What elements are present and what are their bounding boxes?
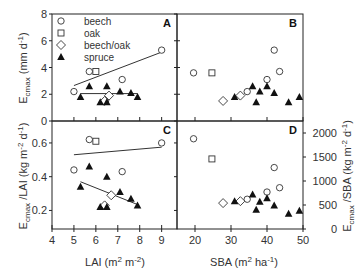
x-tick-label: 7	[115, 234, 121, 246]
point-oak	[209, 156, 215, 162]
legend-marker-oak	[58, 30, 64, 36]
x-axis-title-sba: SBA (m2 ha-1)	[210, 255, 278, 268]
panel-label: D	[289, 124, 297, 136]
point-spruce	[296, 207, 304, 214]
legend-label: oak	[84, 28, 101, 39]
point-spruce	[252, 206, 260, 213]
y-tick-label: 0	[331, 223, 337, 235]
y-tick-label: 0.4	[32, 171, 47, 183]
point-spruce	[270, 201, 278, 208]
legend-marker-beech	[58, 18, 64, 24]
point-spruce	[249, 190, 257, 197]
point-beech	[71, 88, 77, 94]
point-spruce	[270, 89, 278, 96]
point-spruce	[116, 188, 124, 195]
y-axis-title-right: Ecmax /SBA (kg m-2 d-1)	[340, 120, 356, 232]
point-spruce	[127, 89, 135, 96]
x-tick-label: 4	[49, 234, 55, 246]
point-beech	[71, 167, 77, 173]
y-tick-label: 8	[41, 8, 47, 20]
point-spruce	[77, 183, 85, 190]
point-spruce	[263, 82, 271, 89]
point-spruce	[256, 198, 264, 205]
panel-d: D203040500500100015002000	[177, 121, 337, 246]
y-tick-label: 2	[41, 88, 47, 100]
legend-marker-beech-oak	[57, 41, 66, 50]
legend-label: beech/oak	[84, 40, 131, 51]
panel-c: C4567890.20.40.6	[32, 121, 177, 246]
x-tick-label: 5	[71, 234, 77, 246]
y-tick-label: 1000	[313, 175, 337, 187]
point-spruce	[285, 210, 293, 217]
point-beech	[276, 185, 282, 191]
x-tick-label: 50	[297, 234, 309, 246]
panel-frame	[52, 121, 177, 229]
y-tick-label: 4	[41, 62, 47, 74]
point-beech	[271, 164, 277, 170]
x-axis-title-lai: LAI (m2 m-2)	[85, 255, 145, 268]
point-beech-oak	[219, 199, 228, 208]
legend: beechoakbeech/oakspruce	[57, 16, 132, 63]
y-tick-label: 2000	[313, 127, 337, 139]
x-tick-label: 6	[93, 234, 99, 246]
panel-label: B	[289, 17, 297, 29]
x-tick-label: 9	[159, 234, 165, 246]
point-beech	[119, 168, 125, 174]
fit-line-beech	[74, 147, 162, 155]
y-tick-label: 1500	[313, 151, 337, 163]
y-tick-label: 6	[41, 35, 47, 47]
panel-frame	[52, 14, 177, 121]
point-beech	[244, 88, 250, 94]
point-beech-oak	[236, 197, 245, 206]
legend-marker-spruce	[57, 53, 65, 60]
point-beech	[86, 68, 92, 74]
legend-label: beech	[84, 16, 111, 27]
panel-b: B	[177, 14, 303, 121]
point-beech	[158, 140, 164, 146]
point-beech	[86, 136, 92, 142]
point-beech-oak	[219, 96, 228, 105]
point-beech	[158, 47, 164, 53]
panel-label: C	[163, 124, 171, 136]
point-spruce	[85, 82, 93, 89]
point-oak	[209, 70, 215, 76]
y-tick-label: 0	[41, 115, 47, 127]
point-beech-oak	[107, 191, 116, 200]
legend-item: beech	[58, 16, 111, 27]
point-spruce	[296, 93, 304, 100]
y-tick-label: 0.6	[32, 137, 47, 149]
point-oak	[93, 69, 99, 75]
y-axis-title-top: Ecmax (mm d-1)	[16, 32, 32, 104]
point-spruce	[263, 194, 271, 201]
point-spruce	[285, 98, 293, 105]
x-tick-label: 40	[261, 234, 273, 246]
point-spruce	[116, 88, 124, 95]
y-tick-label: 0.2	[32, 204, 47, 216]
x-tick-label: 30	[225, 234, 237, 246]
point-beech	[264, 76, 270, 82]
point-spruce	[252, 98, 260, 105]
legend-label: spruce	[84, 52, 114, 63]
x-tick-label: 8	[137, 234, 143, 246]
point-spruce	[85, 163, 93, 170]
point-beech	[119, 76, 125, 82]
point-spruce	[103, 82, 111, 89]
y-axis-title-bottom: Ecmax /LAI (kg m-2 d-1)	[16, 123, 32, 230]
point-spruce	[134, 201, 142, 208]
point-beech	[190, 70, 196, 76]
point-beech	[276, 68, 282, 74]
x-tick-label: 20	[189, 234, 201, 246]
point-beech	[271, 47, 277, 53]
point-spruce	[103, 173, 111, 180]
legend-item: beech/oak	[57, 40, 132, 51]
point-beech	[190, 136, 196, 142]
point-spruce	[249, 82, 257, 89]
panel-label: A	[163, 17, 171, 29]
chart: A02468BC4567890.20.40.6D2030405005001000…	[0, 0, 363, 277]
panel-frame	[177, 14, 303, 121]
y-tick-label: 500	[319, 199, 337, 211]
point-spruce	[256, 88, 264, 95]
legend-item: spruce	[57, 52, 114, 63]
point-oak	[93, 138, 99, 144]
legend-item: oak	[58, 28, 101, 39]
